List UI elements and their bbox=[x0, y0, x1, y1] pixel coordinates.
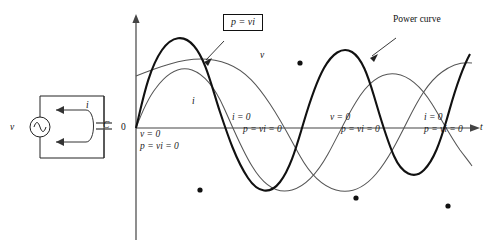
zero-annotation-2-value: p = vi = 0 bbox=[243, 124, 282, 136]
current-arrow-bottom bbox=[56, 138, 64, 146]
circuit-current-label: i bbox=[86, 100, 89, 111]
zero-annotation-1-cause: v = 0 bbox=[140, 129, 179, 141]
power-curve bbox=[136, 38, 470, 190]
voltage-curve-label: v bbox=[260, 50, 264, 61]
zero-annotation-3-value: p = vi = 0 bbox=[341, 124, 380, 136]
current-curve-label: i bbox=[192, 96, 195, 107]
x-axis-arrow bbox=[470, 124, 480, 132]
source-voltage-label: v bbox=[10, 122, 14, 133]
power-curve-text-label: Power curve bbox=[393, 14, 441, 25]
zero-annotation-1-value: p = vi = 0 bbox=[140, 141, 179, 153]
zero-annotation-4-cause: i = 0 bbox=[424, 112, 463, 124]
leader-line-power-curve bbox=[372, 38, 396, 56]
origin-label: 0 bbox=[121, 122, 126, 133]
y-axis-arrow bbox=[132, 14, 139, 23]
power-curve-figure: v C i p = vi Power curve 0 t v bbox=[0, 0, 489, 251]
curve-marker bbox=[297, 60, 302, 65]
zero-annotation-4: i = 0 p = vi = 0 bbox=[424, 112, 463, 136]
x-axis-label: t bbox=[480, 122, 483, 133]
zero-annotation-3-cause: v = 0 bbox=[330, 112, 380, 124]
curve-marker bbox=[353, 195, 358, 200]
curve-marker bbox=[445, 203, 450, 208]
circuit-diagram bbox=[8, 84, 138, 174]
zero-annotation-2: i = 0 p = vi = 0 bbox=[232, 112, 282, 136]
current-arrow-top bbox=[56, 106, 64, 114]
curve-marker bbox=[197, 187, 202, 192]
zero-annotation-3: v = 0 p = vi = 0 bbox=[330, 112, 380, 136]
leader-line-power-label bbox=[206, 41, 224, 60]
capacitor-label: C bbox=[103, 120, 109, 131]
boxed-power-label: p = vi bbox=[223, 14, 263, 31]
zero-annotation-4-value: p = vi = 0 bbox=[424, 124, 463, 136]
zero-annotation-1: v = 0 p = vi = 0 bbox=[140, 129, 179, 153]
zero-annotation-2-cause: i = 0 bbox=[232, 112, 282, 124]
